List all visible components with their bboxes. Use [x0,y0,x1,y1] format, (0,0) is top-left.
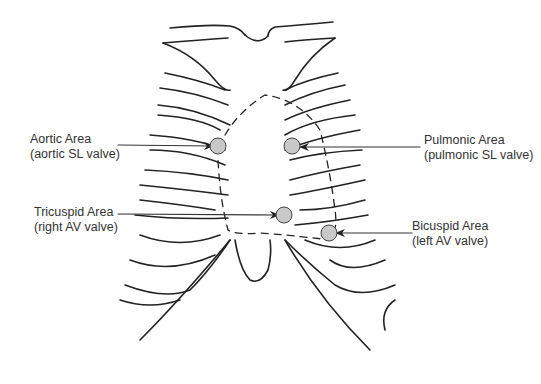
aortic-area-title: Aortic Area [30,132,120,147]
bicuspid-area-title: Bicuspid Area [412,219,488,234]
tricuspid-area-title: Tricuspid Area [34,205,118,220]
tricuspid-area-label: Tricuspid Area (right AV valve) [34,205,118,235]
ribs-right [283,38,395,350]
sternal-notch [245,35,268,41]
clavicle-right [268,22,335,42]
clavicle-left [163,25,245,43]
pulmonic-area-subtitle: (pulmonic SL valve) [424,148,533,163]
aortic-area-marker [210,138,226,154]
aortic-area-subtitle: (aortic SL valve) [30,147,120,162]
aortic-area-label: Aortic Area (aortic SL valve) [30,132,120,162]
bicuspid-area-subtitle: (left AV valve) [412,234,488,249]
tricuspid-area-subtitle: (right AV valve) [34,220,118,235]
ribs-left [120,43,230,340]
pulmonic-area-label: Pulmonic Area (pulmonic SL valve) [424,133,533,163]
pulmonic-area-title: Pulmonic Area [424,133,533,148]
bicuspid-area-marker [321,225,337,241]
bicuspid-area-label: Bicuspid Area (left AV valve) [412,219,488,249]
rib-cage-illustration [0,0,541,384]
xiphoid-process [235,240,271,281]
tricuspid-area-marker [276,207,292,223]
pulmonic-area-marker [284,138,300,154]
